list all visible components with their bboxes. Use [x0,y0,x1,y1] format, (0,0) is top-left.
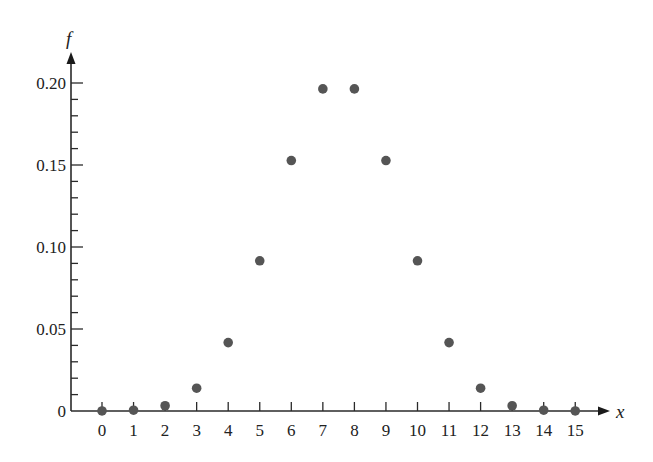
x-tick-label: 14 [535,421,553,440]
data-point [255,256,265,266]
data-point [97,406,107,416]
data-point [444,338,454,348]
x-tick-label: 6 [287,421,296,440]
data-point [507,401,517,411]
data-points [97,84,580,416]
y-tick-label: 0.20 [36,74,66,93]
x-tick-label: 8 [350,421,359,440]
data-point [318,84,328,94]
data-point [476,383,486,393]
x-tick-label: 9 [382,421,391,440]
y-tick-label: 0.15 [36,156,66,175]
data-point [539,405,549,415]
data-point [192,383,202,393]
x-tick-label: 10 [409,421,426,440]
y-tick-label: 0.05 [36,320,66,339]
y-axis: f 00.050.100.150.20 [36,28,83,421]
y-axis-label: f [66,28,74,49]
chart: f 00.050.100.150.20 x 012345678910111213… [0,0,653,462]
data-point [413,256,423,266]
y-ticks: 00.050.100.150.20 [36,74,83,421]
x-tick-label: 12 [472,421,489,440]
x-tick-label: 4 [224,421,233,440]
x-tick-label: 11 [441,421,457,440]
data-point [223,338,233,348]
x-tick-label: 7 [319,421,328,440]
x-axis-arrow-icon [598,407,610,416]
x-tick-label: 15 [567,421,584,440]
x-tick-label: 1 [129,421,138,440]
y-axis-arrow-icon [67,52,76,64]
x-tick-label: 13 [504,421,521,440]
data-point [350,84,360,94]
data-point [129,405,139,415]
y-tick-label: 0.10 [36,238,66,257]
data-point [570,406,580,416]
x-tick-label: 0 [98,421,107,440]
x-tick-label: 5 [256,421,265,440]
data-point [160,401,170,411]
data-point [381,156,391,166]
y-tick-label: 0 [58,402,67,421]
data-point [287,156,297,166]
x-tick-label: 2 [161,421,170,440]
x-axis-label: x [615,401,625,422]
x-tick-label: 3 [192,421,201,440]
